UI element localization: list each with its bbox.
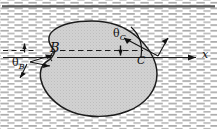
theta-b-glyph: θ — [12, 56, 19, 69]
angle-c-label: θC — [113, 27, 126, 42]
contact-angle-diagram — [0, 0, 217, 129]
point-c-label: C — [137, 54, 145, 67]
theta-b-subscript: B — [19, 62, 25, 71]
point-b-label: B — [50, 40, 60, 55]
axis-x-label: x — [202, 48, 208, 61]
top-wall — [2, 5, 215, 8]
theta-c-glyph: θ — [113, 27, 120, 40]
figure-canvas: B C θB θC x — [0, 0, 217, 129]
theta-c-subscript: C — [120, 33, 126, 42]
angle-b-label: θB — [12, 56, 25, 71]
